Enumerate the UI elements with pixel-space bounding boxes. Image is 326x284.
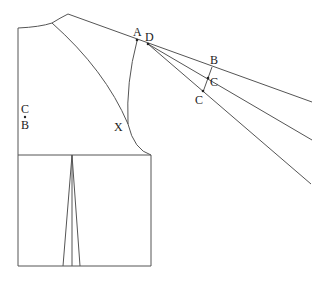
armhole-curve bbox=[128, 41, 151, 155]
label-b-right: B bbox=[210, 53, 218, 67]
label-x: X bbox=[114, 120, 123, 134]
label-b-left: B bbox=[21, 118, 29, 132]
label-c-low: C bbox=[195, 93, 203, 107]
raglan-line bbox=[52, 23, 128, 124]
label-d: D bbox=[145, 30, 154, 44]
sleeve-ray-lower bbox=[148, 44, 311, 184]
label-c-mid: C bbox=[210, 75, 218, 89]
sleeve-ray-middle bbox=[148, 44, 312, 140]
neckline bbox=[18, 14, 68, 28]
pattern-diagram: A D B C C X C B bbox=[0, 0, 326, 284]
point-c-low bbox=[202, 90, 205, 93]
dart-right-leg bbox=[72, 155, 80, 266]
dart-left-leg bbox=[63, 155, 72, 266]
label-a: A bbox=[133, 25, 142, 39]
label-c-left: C bbox=[21, 102, 29, 116]
point-c-mid bbox=[207, 77, 210, 80]
pattern-svg: A D B C C X C B bbox=[0, 0, 326, 284]
point-a bbox=[136, 39, 139, 42]
shoulder-line bbox=[68, 14, 312, 102]
